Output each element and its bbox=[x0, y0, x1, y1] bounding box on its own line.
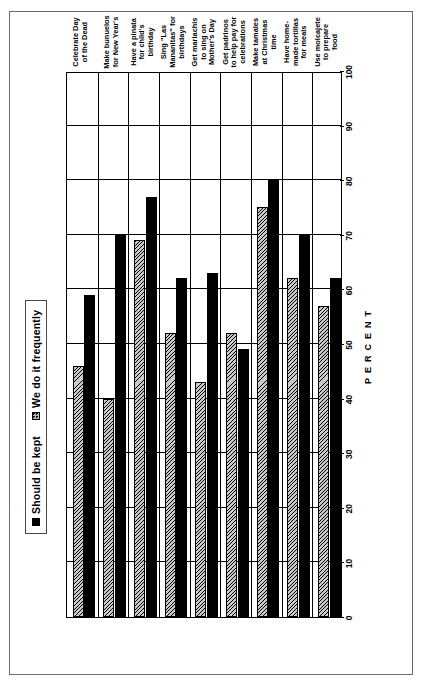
tick-mark bbox=[340, 180, 344, 181]
chart-page: Should be kept We do it frequently 01020… bbox=[0, 0, 423, 688]
x-tick-label: 100 bbox=[344, 65, 354, 79]
category-separator bbox=[251, 73, 252, 617]
category-separator bbox=[128, 73, 129, 617]
bar-we-do-it-frequently bbox=[225, 333, 236, 617]
bar-we-do-it-frequently bbox=[256, 208, 267, 618]
rotated-chart-stage: Should be kept We do it frequently 01020… bbox=[0, 0, 423, 688]
category-separator bbox=[189, 73, 190, 617]
bar-we-do-it-frequently bbox=[103, 399, 114, 617]
x-axis-title: PERCENT bbox=[363, 72, 373, 618]
tick-mark bbox=[340, 508, 344, 509]
category-label-line: birthdays bbox=[177, 12, 186, 72]
x-tick-label: 90 bbox=[344, 122, 354, 131]
category-label: Get mariachisto sing onMother's Day bbox=[191, 12, 217, 72]
x-tick-label: 30 bbox=[344, 449, 354, 458]
bar-we-do-it-frequently bbox=[133, 240, 144, 617]
plot-area-wrapper bbox=[66, 72, 342, 618]
x-tick-label: 60 bbox=[344, 286, 354, 295]
category-label-line: Get mariachis bbox=[191, 12, 200, 72]
category-label-line: Have a pinata bbox=[129, 12, 138, 72]
bar-should-be-kept bbox=[329, 278, 340, 617]
tick-mark bbox=[340, 289, 344, 290]
category-separator bbox=[97, 73, 98, 617]
category-label-line: Make bunuelos bbox=[103, 12, 112, 72]
category-label-line: food bbox=[330, 12, 339, 72]
category-label: Make tamalesat Christmastime bbox=[252, 12, 278, 72]
legend-swatch-hatched-icon bbox=[32, 412, 40, 420]
category-label-line: for New Year's bbox=[112, 12, 121, 72]
x-tick-label: 80 bbox=[344, 176, 354, 185]
category-label-line: of the Dead bbox=[81, 12, 90, 72]
legend-item-we-do-it-frequently: We do it frequently bbox=[30, 310, 42, 420]
x-axis-ticks: 0102030405060708090100 bbox=[344, 72, 360, 618]
x-tick-label: 70 bbox=[344, 231, 354, 240]
tick-mark bbox=[340, 344, 344, 345]
category-separator bbox=[220, 73, 221, 617]
bar-should-be-kept bbox=[206, 273, 217, 617]
category-separator bbox=[312, 73, 313, 617]
category-separator bbox=[159, 73, 160, 617]
category-label-line: Mother's Day bbox=[208, 12, 217, 72]
x-tick-label: 40 bbox=[344, 395, 354, 404]
category-label-line: Use molcajete bbox=[313, 12, 322, 72]
bar-we-do-it-frequently bbox=[195, 382, 206, 617]
tick-mark bbox=[340, 399, 344, 400]
bar-should-be-kept bbox=[145, 197, 156, 617]
category-label-line: celebrations bbox=[238, 12, 247, 72]
category-axis-labels: Celebrate Dayof the DeadMake bunuelosfor… bbox=[66, 12, 342, 72]
category-label-line: time bbox=[269, 12, 278, 72]
bar-should-be-kept bbox=[176, 278, 187, 617]
bar-we-do-it-frequently bbox=[287, 278, 298, 617]
tick-mark bbox=[340, 562, 344, 563]
category-label-line: for meals bbox=[300, 12, 309, 72]
category-label-line: Sing "Las bbox=[160, 12, 169, 72]
legend-label-should-be-kept: Should be kept bbox=[30, 436, 42, 514]
x-tick-label: 20 bbox=[344, 504, 354, 513]
gridline bbox=[67, 179, 341, 180]
x-tick-label: 0 bbox=[344, 616, 354, 621]
bar-should-be-kept bbox=[114, 235, 125, 617]
category-separator bbox=[281, 73, 282, 617]
chart-canvas: Should be kept We do it frequently 01020… bbox=[11, 12, 413, 676]
plot-area bbox=[66, 72, 342, 618]
chart-legend: Should be kept We do it frequently bbox=[25, 300, 47, 534]
bar-should-be-kept bbox=[268, 180, 279, 617]
category-label: Use molcajeteto preparefood bbox=[313, 12, 339, 72]
tick-mark bbox=[340, 235, 344, 236]
category-label: Have home-made tortillasfor meals bbox=[283, 12, 309, 72]
category-label: Celebrate Dayof the Dead bbox=[72, 12, 89, 72]
category-label: Sing "LasMananitas" forbirthdays bbox=[160, 12, 186, 72]
category-label-line: Celebrate Day bbox=[72, 12, 81, 72]
bar-should-be-kept bbox=[84, 295, 95, 617]
tick-mark bbox=[340, 126, 344, 127]
category-label-line: Make tamales bbox=[252, 12, 261, 72]
category-label: Get padrinosto help pay forcelebrations bbox=[221, 12, 247, 72]
tick-mark bbox=[340, 617, 344, 618]
legend-swatch-solid-icon bbox=[32, 518, 40, 526]
category-label: Have a pinatafor child'sbirthday bbox=[129, 12, 155, 72]
gridline bbox=[67, 125, 341, 126]
bar-should-be-kept bbox=[298, 235, 309, 617]
category-label-line: Get padrinos bbox=[221, 12, 230, 72]
category-label-line: birthday bbox=[146, 12, 155, 72]
category-label-line: Have home- bbox=[283, 12, 292, 72]
x-tick-label: 50 bbox=[344, 340, 354, 349]
x-tick-label: 10 bbox=[344, 559, 354, 568]
legend-label-we-do-it-frequently: We do it frequently bbox=[30, 310, 42, 408]
category-label: Make bunuelosfor New Year's bbox=[103, 12, 120, 72]
bar-should-be-kept bbox=[237, 349, 248, 617]
legend-item-should-be-kept: Should be kept bbox=[30, 436, 42, 526]
bar-we-do-it-frequently bbox=[164, 333, 175, 617]
bar-we-do-it-frequently bbox=[317, 306, 328, 617]
tick-mark bbox=[340, 453, 344, 454]
bar-we-do-it-frequently bbox=[72, 366, 83, 617]
